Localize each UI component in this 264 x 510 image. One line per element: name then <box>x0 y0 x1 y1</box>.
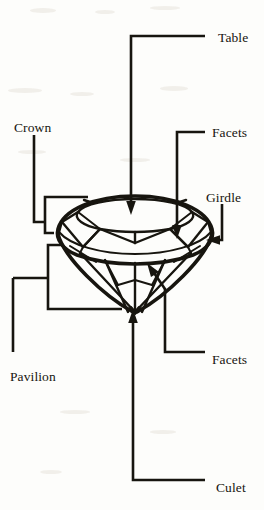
culet-leader <box>128 309 205 480</box>
label-table: Table <box>218 31 248 45</box>
label-girdle: Girdle <box>206 191 241 205</box>
facets-pavilion-leader <box>147 263 205 352</box>
table-arrowhead <box>126 201 136 215</box>
diamond-illustration <box>57 196 212 313</box>
label-culet: Culet <box>216 481 246 495</box>
label-facets-pavilion: Facets <box>212 353 247 367</box>
label-pavilion: Pavilion <box>10 370 56 384</box>
label-crown: Crown <box>14 121 51 135</box>
diagram-vector-layer: .ink{stroke:#17150f;fill:none;} .lead{st… <box>0 0 264 510</box>
diagram-canvas: .ink{stroke:#17150f;fill:none;} .lead{st… <box>0 0 264 510</box>
table-leader <box>126 36 205 215</box>
label-facets-crown: Facets <box>212 126 247 140</box>
crown-leader <box>34 135 88 233</box>
